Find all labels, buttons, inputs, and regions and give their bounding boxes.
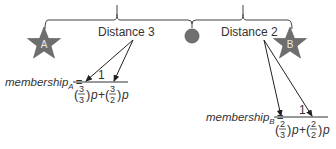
svg-text:): ): [86, 87, 90, 102]
svg-text:membershipB=: membershipB=: [206, 111, 284, 126]
star-b: B: [274, 27, 307, 58]
svg-text:p: p: [121, 88, 129, 102]
formula-b: membershipB= 1 ( 2 3 ) p + ( 2 2 ) p: [206, 103, 330, 140]
svg-text:2: 2: [311, 130, 316, 140]
svg-text:+: +: [299, 123, 306, 137]
membership-diagram: A B Distance 3 Distance 2 membershipA= 1…: [0, 0, 336, 149]
svg-text:1: 1: [299, 103, 306, 117]
midpoint-circle: [185, 29, 199, 43]
distance-2-label: Distance 2: [221, 25, 278, 39]
distance-3-label: Distance 3: [98, 25, 155, 39]
svg-text:1: 1: [98, 68, 105, 82]
formula-a: membershipA= 1 ( 3 3 ) p + ( 3 2 ) p: [5, 68, 129, 105]
svg-text:): ): [318, 122, 322, 137]
svg-text:+: +: [98, 88, 105, 102]
svg-text:3: 3: [280, 130, 285, 140]
svg-text:2: 2: [280, 119, 285, 129]
svg-text:p: p: [322, 123, 330, 137]
star-a-label: A: [41, 39, 48, 50]
svg-text:): ): [117, 87, 121, 102]
svg-text:2: 2: [311, 119, 316, 129]
svg-text:membershipA=: membershipA=: [5, 76, 83, 91]
star-a: A: [28, 27, 61, 58]
arrows-a: [86, 40, 133, 81]
svg-text:p: p: [90, 88, 98, 102]
svg-text:3: 3: [110, 84, 115, 94]
svg-text:2: 2: [110, 95, 115, 105]
svg-text:p: p: [291, 123, 299, 137]
svg-text:): ): [287, 122, 291, 137]
star-b-label: B: [287, 39, 294, 50]
svg-text:3: 3: [79, 84, 84, 94]
svg-text:3: 3: [79, 95, 84, 105]
